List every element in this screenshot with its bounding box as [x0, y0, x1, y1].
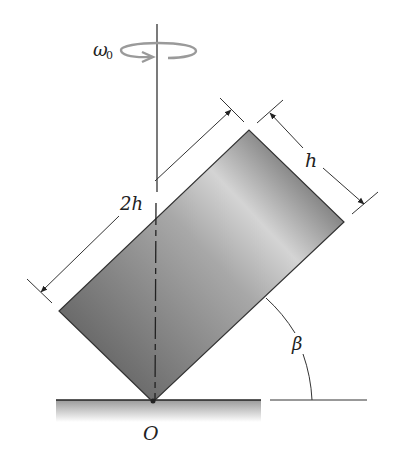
- ground: [56, 400, 261, 422]
- figure-svg: ω 0 2h h β O: [0, 0, 399, 457]
- rotation-arrow-icon: [121, 43, 196, 62]
- length-2h-label: 2h: [119, 193, 143, 214]
- pivot-point: [151, 399, 156, 404]
- pivot-label: O: [143, 422, 159, 444]
- angle-beta-arc: [266, 298, 367, 400]
- omega-subscript: 0: [106, 49, 113, 62]
- length-h-label: h: [305, 149, 317, 171]
- angle-beta-label: β: [291, 333, 302, 354]
- rectangular-block: [59, 130, 344, 402]
- diagram-canvas: ω 0 2h h β O: [0, 0, 399, 457]
